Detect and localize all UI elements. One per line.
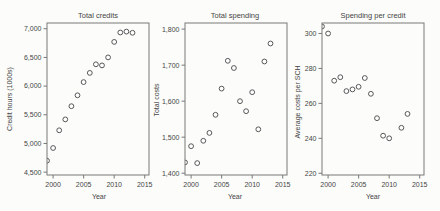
data-point <box>262 59 267 64</box>
x-tick-label: 2010 <box>244 181 260 188</box>
y-axis-label-average-costs-per-sch: Average costs per SCH <box>294 65 302 138</box>
x-tick-label: 2005 <box>351 181 367 188</box>
data-point <box>112 40 117 45</box>
data-point <box>381 133 386 138</box>
points-group <box>183 41 273 165</box>
x-tick-label: 2015 <box>137 181 153 188</box>
data-point <box>124 29 129 34</box>
x-axis-label-year-3: Year <box>366 193 380 201</box>
data-point <box>69 104 74 109</box>
chart-panel-1: 20002005201020154,5005,0005,5006,0006,50… <box>24 23 153 188</box>
data-point <box>326 31 331 36</box>
x-tick-label: 2005 <box>214 181 230 188</box>
figure-canvas: 20002005201020154,5005,0005,5006,0006,50… <box>0 0 440 211</box>
chart-title-spending-per-credit: Spending per credit <box>340 12 405 20</box>
y-axis-label-total-costs: Total costs <box>153 83 161 116</box>
data-point <box>350 87 355 92</box>
data-point <box>81 80 86 85</box>
y-tick-label: 1,400 <box>162 170 180 177</box>
data-point <box>63 117 68 122</box>
data-point <box>338 75 343 80</box>
data-point <box>256 127 261 132</box>
data-point <box>268 41 273 46</box>
y-tick-label: 1,800 <box>162 26 180 33</box>
data-point <box>375 116 380 121</box>
x-tick-label: 2000 <box>183 181 199 188</box>
data-point <box>130 30 135 35</box>
chart-title-total-spending: Total spending <box>211 12 259 20</box>
three-panel-scatter-figure: 20002005201020154,5005,0005,5006,0006,50… <box>0 0 440 211</box>
y-tick-label: 7,000 <box>24 25 42 32</box>
data-point <box>57 128 62 133</box>
x-tick-label: 2010 <box>106 181 122 188</box>
x-tick-label: 2010 <box>381 181 397 188</box>
y-tick-label: 6,500 <box>24 54 42 61</box>
data-point <box>369 91 374 96</box>
x-tick-label: 2015 <box>275 181 291 188</box>
data-point <box>189 144 194 149</box>
y-tick-label: 1,600 <box>162 98 180 105</box>
data-point <box>219 86 224 91</box>
data-point <box>225 58 230 63</box>
data-point <box>75 93 80 98</box>
data-point <box>201 138 206 143</box>
data-point <box>244 109 249 114</box>
data-point <box>362 76 367 81</box>
points-group <box>320 24 410 141</box>
data-point <box>207 131 212 136</box>
data-point <box>399 125 404 130</box>
x-tick-label: 2015 <box>412 181 428 188</box>
y-tick-label: 240 <box>305 135 317 142</box>
y-tick-label: 1,500 <box>162 134 180 141</box>
x-tick-label: 2005 <box>76 181 92 188</box>
x-axis-label-year-1: Year <box>92 193 106 201</box>
data-point <box>213 112 218 117</box>
data-point <box>100 63 105 68</box>
x-tick-label: 2000 <box>320 181 336 188</box>
data-point <box>118 30 123 35</box>
data-point <box>94 62 99 67</box>
y-tick-label: 280 <box>305 65 317 72</box>
y-tick-label: 260 <box>305 100 317 107</box>
y-tick-label: 1,700 <box>162 62 180 69</box>
data-point <box>195 161 200 166</box>
data-point <box>344 89 349 94</box>
points-group <box>45 29 135 163</box>
data-point <box>356 84 361 89</box>
data-point <box>87 71 92 76</box>
y-tick-label: 5,000 <box>24 140 42 147</box>
y-tick-label: 5,500 <box>24 111 42 118</box>
plot-border <box>322 23 424 175</box>
y-axis-label-credit-hours: Credit hours (1000s) <box>6 67 14 131</box>
data-point <box>405 112 410 117</box>
data-point <box>387 136 392 141</box>
y-tick-label: 220 <box>305 170 317 177</box>
chart-title-total-credits: Total credits <box>78 12 118 20</box>
y-tick-label: 4,500 <box>24 169 42 176</box>
data-point <box>232 66 237 71</box>
data-point <box>238 99 243 104</box>
data-point <box>51 146 56 151</box>
data-point <box>106 55 111 60</box>
x-axis-label-year-2: Year <box>228 193 242 201</box>
y-tick-label: 300 <box>305 30 317 37</box>
chart-panel-2: 20002005201020151,4001,5001,6001,7001,80… <box>162 23 291 188</box>
x-tick-label: 2000 <box>45 181 61 188</box>
data-point <box>332 78 337 83</box>
data-point <box>250 90 255 95</box>
chart-panel-3: 2000200520102015220240260280300 <box>305 23 428 188</box>
y-tick-label: 6,000 <box>24 82 42 89</box>
plot-border <box>47 23 149 175</box>
